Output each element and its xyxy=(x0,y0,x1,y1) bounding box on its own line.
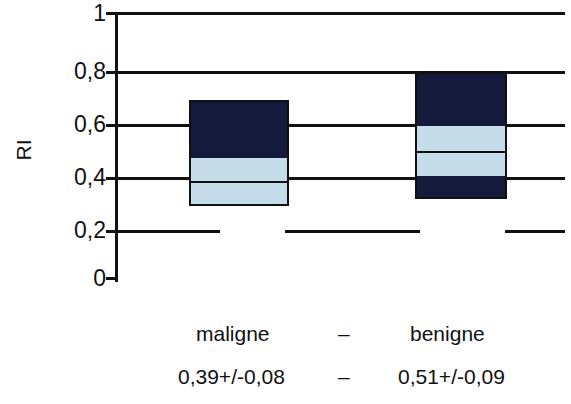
gridline-02-segment-right xyxy=(505,230,565,233)
y-tick-label-02: 0,2 xyxy=(34,219,106,242)
y-tick-label-08: 0,8 xyxy=(34,60,106,83)
box-maligne-median-line xyxy=(191,181,287,183)
gridline-1 xyxy=(115,12,565,15)
gridline-02-segment-left xyxy=(115,230,220,233)
chart-figure: RI 1 0,8 0,6 0,4 0,2 0 xyxy=(0,0,571,404)
box-maligne xyxy=(189,100,289,206)
x-category-label-benigne: benigne xyxy=(410,322,485,346)
box-benigne-upper-dark xyxy=(417,74,505,126)
y-tick-label-1: 1 xyxy=(34,2,106,25)
y-tick-label-06: 0,6 xyxy=(34,113,106,136)
x-value-label-maligne: 0,39+/-0,08 xyxy=(178,365,285,389)
tick-mark-0 xyxy=(106,277,118,280)
y-axis-line xyxy=(115,12,118,282)
gridline-02-segment-middle xyxy=(285,230,420,233)
box-benigne-median-line xyxy=(417,151,505,153)
x-category-label-maligne: maligne xyxy=(196,322,270,346)
x-category-separator-dash: – xyxy=(338,322,350,346)
x-value-separator-dash: – xyxy=(338,365,350,389)
y-tick-label-04: 0,4 xyxy=(34,166,106,189)
box-benigne-lower-dark xyxy=(417,176,505,199)
box-benigne xyxy=(415,72,507,199)
x-value-label-benigne: 0,51+/-0,09 xyxy=(398,365,505,389)
y-tick-label-0: 0 xyxy=(34,267,106,290)
box-maligne-upper-dark xyxy=(191,102,287,158)
